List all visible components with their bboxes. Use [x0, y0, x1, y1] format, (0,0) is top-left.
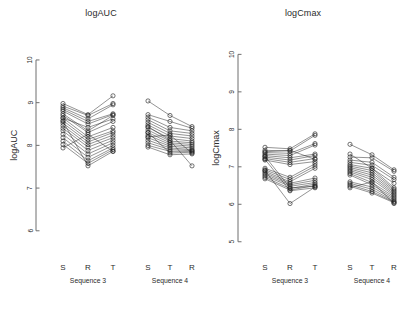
x-category-label: T — [313, 263, 318, 272]
x-category-label: S — [145, 263, 150, 272]
panel-logauc: logAUC 678910logAUCSRTSequence 3STRSeque… — [0, 0, 202, 320]
subject-profile-line — [63, 96, 113, 115]
data-point — [146, 130, 150, 134]
y-tick-label: 6 — [229, 202, 236, 206]
x-category-label: R — [189, 263, 195, 272]
data-point — [348, 142, 352, 146]
y-tick-label: 6 — [27, 229, 34, 233]
x-group-label: Sequence 4 — [354, 277, 391, 285]
x-category-label: S — [60, 263, 65, 272]
plot-area-logcmax: 5678910logCmaxSRTSequence 3STRSequence 4 — [202, 0, 404, 320]
y-tick-label: 5 — [229, 240, 236, 244]
subject-profile-line — [148, 101, 192, 127]
x-category-label: S — [262, 263, 267, 272]
x-group-label: Sequence 3 — [70, 277, 107, 285]
y-tick-label: 9 — [27, 100, 34, 104]
x-group-label: Sequence 3 — [272, 277, 309, 285]
figure-canvas: logAUC 678910logAUCSRTSequence 3STRSeque… — [0, 0, 404, 320]
y-tick-label: 7 — [27, 186, 34, 190]
x-category-label: T — [111, 263, 116, 272]
x-category-label: R — [85, 263, 91, 272]
subject-profile-line — [148, 115, 192, 129]
y-tick-label: 7 — [229, 165, 236, 169]
x-group-label: Sequence 4 — [152, 277, 189, 285]
y-axis-title: logCmax — [211, 130, 221, 166]
x-category-label: R — [391, 263, 397, 272]
y-tick-label: 10 — [27, 56, 34, 64]
plot-area-logauc: 678910logAUCSRTSequence 3STRSequence 4 — [0, 0, 202, 320]
x-category-label: T — [168, 263, 173, 272]
x-category-label: T — [370, 263, 375, 272]
y-tick-label: 9 — [229, 90, 236, 94]
y-tick-label: 8 — [27, 143, 34, 147]
panel-logcmax: logCmax 5678910logCmaxSRTSequence 3STRSe… — [202, 0, 404, 320]
x-category-label: S — [347, 263, 352, 272]
y-tick-label: 8 — [229, 127, 236, 131]
y-tick-label: 10 — [229, 50, 236, 58]
x-category-label: R — [287, 263, 293, 272]
y-axis-title: logAUC — [9, 129, 19, 161]
